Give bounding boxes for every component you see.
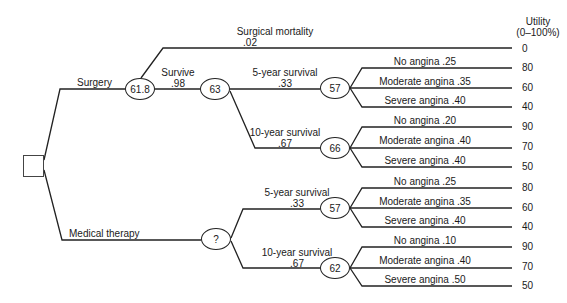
chance-node-surgery-10yr: 66	[320, 137, 350, 159]
utility-value: 70	[522, 141, 533, 152]
outcome-label: Severe angina .40	[384, 215, 465, 226]
utility-value: 40	[522, 101, 533, 112]
survive-label: Survive	[161, 67, 194, 78]
utility-value: 90	[522, 121, 533, 132]
surgery-label: Surgery	[77, 77, 112, 88]
surgery-10yr-prob: .67	[278, 138, 292, 149]
outcome-label: Moderate angina .35	[379, 196, 471, 207]
chance-node-surgery: 61.8	[125, 78, 155, 100]
surgery-10yr-label: 10-year survival	[250, 127, 321, 138]
utility-value: 70	[522, 261, 533, 272]
outcome-label: Moderate angina .40	[379, 135, 471, 146]
decision-node	[23, 155, 44, 177]
mortality-label: Surgical mortality	[237, 26, 314, 37]
medical-5yr-label: 5-year survival	[264, 187, 329, 198]
utility-value: 60	[522, 202, 533, 213]
utility-value: 50	[522, 161, 533, 172]
utility-value: 80	[522, 182, 533, 193]
utility-value: 80	[522, 62, 533, 73]
outcome-label: Moderate angina .40	[379, 255, 471, 266]
medical-10yr-label: 10-year survival	[262, 247, 333, 258]
medical-therapy-label: Medical therapy	[69, 228, 140, 239]
utility-value: 90	[522, 241, 533, 252]
outcome-label: No angina .25	[394, 56, 456, 67]
outcome-label: No angina .10	[394, 235, 456, 246]
outcome-label: Severe angina .50	[384, 274, 465, 285]
chance-node-survive: 63	[200, 78, 230, 100]
medical-10yr-prob: .67	[290, 258, 304, 269]
chance-node-medical-10yr: 62	[320, 257, 350, 279]
outcome-label: Moderate angina .35	[379, 76, 471, 87]
outcome-label: No angina .25	[394, 176, 456, 187]
utility-value: 40	[522, 221, 533, 232]
survive-prob: .98	[171, 78, 185, 89]
surgery-5yr-label: 5-year survival	[252, 67, 317, 78]
utility-title: Utility	[526, 16, 550, 27]
chance-node-medical-5yr: 57	[320, 197, 350, 219]
utility-mortality: 0	[522, 43, 528, 54]
outcome-label: Severe angina .40	[384, 95, 465, 106]
utility-value: 60	[522, 82, 533, 93]
utility-range: (0–100%)	[516, 27, 559, 38]
mortality-prob: .02	[243, 37, 257, 48]
outcome-label: Severe angina .40	[384, 155, 465, 166]
surgery-5yr-prob: .33	[278, 78, 292, 89]
chance-node-surgery-5yr: 57	[320, 77, 350, 99]
utility-value: 50	[522, 280, 533, 291]
medical-5yr-prob: .33	[290, 198, 304, 209]
outcome-label: No angina .20	[394, 115, 456, 126]
chance-node-medical: ?	[201, 228, 231, 250]
